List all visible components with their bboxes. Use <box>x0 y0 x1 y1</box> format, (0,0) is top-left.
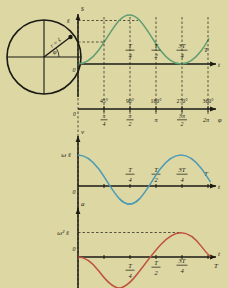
degree-label-90: 90° <box>126 98 135 104</box>
velocity-tick-T-over-4-num: T <box>128 166 132 173</box>
radian-2pi: 2π <box>203 116 210 123</box>
degree-label-45: 45° <box>100 98 109 104</box>
tick-T-over-4-num: T <box>128 42 132 49</box>
shm-figure: r = ŝ φ s t 0 ŝ T 4 T <box>0 0 228 288</box>
phase-axis-label: φ <box>218 116 222 123</box>
acceleration-tick-T-over-2-num: T <box>154 259 158 266</box>
acceleration-tick-T-over-4-num: T <box>128 262 132 269</box>
degree-label-270: 270° <box>176 98 188 104</box>
degree-label-360: 360° <box>202 98 214 104</box>
displacement-amplitude-label: ŝ <box>67 17 70 25</box>
acceleration-origin-label: 0 <box>73 246 76 252</box>
degree-label-180: 180° <box>150 98 162 104</box>
angle-label: φ <box>53 48 57 55</box>
tick-3T-over-4-num: 3T <box>178 42 186 49</box>
velocity-origin-label: 0 <box>73 189 76 195</box>
tick-T-over-2-num: T <box>154 42 158 49</box>
radian-3pi-over-2-num: 3π <box>178 113 186 119</box>
acceleration-amplitude-label: ω² ŝ <box>57 229 69 237</box>
radian-pi-over-2-den: 2 <box>129 121 132 127</box>
displacement-y-axis-label: s <box>81 4 84 13</box>
radian-3pi-over-2-den: 2 <box>181 121 184 127</box>
phase-origin-label: 0 <box>73 111 76 117</box>
velocity-amplitude-label: ω ŝ <box>61 151 71 159</box>
reference-circle-group: r = ŝ φ <box>7 20 81 94</box>
radius-endpoint-dot <box>68 35 72 39</box>
velocity-tick-3T-over-4-num: 3T <box>178 166 186 173</box>
radian-pi-over-4-den: 4 <box>103 121 106 127</box>
figure-background <box>0 0 228 288</box>
acceleration-y-axis-label: a <box>81 200 85 208</box>
displacement-origin-label: 0 <box>73 67 76 73</box>
